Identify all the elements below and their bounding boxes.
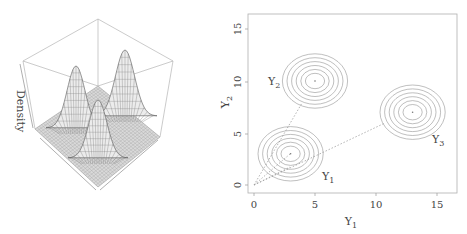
- contour-plot: 0 5 10 15 0 5 10 15 Y1 Y2: [220, 0, 467, 234]
- contour-groups: [258, 54, 445, 181]
- cluster-label-y2: Y2: [267, 75, 280, 90]
- y-tick-0: 0: [232, 182, 243, 188]
- density-surface-panel: Density: [0, 0, 230, 234]
- y-tick-10: 10: [232, 76, 243, 89]
- y-axis: [245, 29, 248, 185]
- density-axis-label: Density: [14, 90, 27, 133]
- x-axis-title: Y1: [344, 215, 357, 230]
- contour-y3: [380, 85, 445, 139]
- x-axis: [254, 193, 437, 196]
- density-surface-plot: Density: [0, 0, 230, 234]
- x-tick-5: 5: [312, 199, 318, 210]
- cluster-label-y3: Y3: [431, 133, 444, 148]
- y-tick-15: 15: [232, 23, 243, 36]
- x-tick-15: 15: [431, 199, 444, 210]
- x-tick-10: 10: [370, 199, 383, 210]
- cluster-label-y1: Y1: [321, 170, 334, 185]
- y-axis-title: Y2: [220, 96, 234, 109]
- x-tick-0: 0: [251, 199, 257, 210]
- contour-plot-panel: 0 5 10 15 0 5 10 15 Y1 Y2: [220, 0, 467, 234]
- contour-y1: [258, 127, 323, 181]
- contour-y2: [282, 54, 347, 108]
- y-tick-5: 5: [232, 131, 243, 137]
